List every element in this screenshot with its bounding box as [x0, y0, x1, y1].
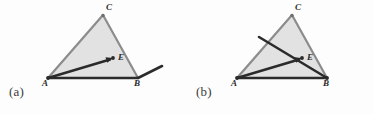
ray-from-b: [138, 66, 162, 78]
panel-b-caption: (b): [196, 84, 212, 100]
panel-a-caption: (a): [9, 84, 24, 100]
point-c-dot: [290, 14, 293, 17]
panel-b: A B C E (b): [187, 0, 374, 114]
panel-a-drawing: [0, 0, 187, 114]
point-e-dot: [111, 56, 115, 60]
geometry-figure: A B C E (a) A B C E (b): [0, 0, 374, 114]
vertex-label-c: C: [295, 3, 301, 12]
vertex-label-e: E: [118, 53, 124, 62]
triangle-abc: [48, 15, 138, 78]
vertex-label-a: A: [231, 79, 237, 88]
point-c-dot: [101, 14, 104, 17]
vertex-label-a: A: [42, 79, 48, 88]
vertex-label-c: C: [106, 3, 112, 12]
vertex-label-e: E: [307, 53, 313, 62]
vertex-label-b: B: [134, 79, 140, 88]
panel-b-drawing: [187, 0, 374, 114]
vertex-label-b: B: [323, 79, 329, 88]
point-e-dot: [300, 56, 304, 60]
panel-a: A B C E (a): [0, 0, 187, 114]
